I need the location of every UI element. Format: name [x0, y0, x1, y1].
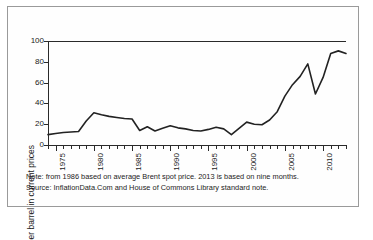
x-tick-mark — [109, 145, 110, 149]
x-tick-label: 2005 — [288, 153, 296, 171]
y-tick-label: 100 — [31, 37, 44, 45]
x-tick-label: 1975 — [59, 153, 67, 171]
x-tick-mark — [247, 145, 248, 151]
x-tick-mark — [124, 145, 125, 149]
x-tick-mark — [293, 145, 294, 149]
x-tick-mark — [231, 145, 232, 149]
x-tick-mark — [186, 145, 187, 149]
y-tick-label: 80 — [35, 58, 44, 66]
source-line: Source: InflationData.Com and House of C… — [26, 182, 346, 193]
x-tick-mark — [323, 145, 324, 151]
x-tick-mark — [224, 145, 225, 149]
x-tick-label: 1985 — [135, 153, 143, 171]
y-tick-label: 60 — [35, 79, 44, 87]
x-tick-label: 2010 — [326, 153, 334, 171]
x-tick-mark — [308, 145, 309, 149]
x-tick-mark — [117, 145, 118, 149]
x-tick-mark — [79, 145, 80, 149]
x-tick-label: 1990 — [173, 153, 181, 171]
x-tick-mark — [86, 145, 87, 149]
price-line-series — [48, 41, 346, 145]
x-tick-mark — [208, 145, 209, 151]
y-axis-title: US $ per barrel in current prices — [16, 41, 28, 145]
x-tick-mark — [270, 145, 271, 149]
x-tick-mark — [48, 145, 49, 149]
x-tick-label: 2000 — [250, 153, 258, 171]
y-tick-label: 0 — [40, 141, 44, 149]
x-tick-mark — [338, 145, 339, 149]
x-tick-mark — [170, 145, 171, 151]
x-tick-mark — [101, 145, 102, 149]
x-tick-mark — [163, 145, 164, 149]
x-tick-mark — [132, 145, 133, 151]
x-tick-mark — [300, 145, 301, 149]
x-tick-mark — [147, 145, 148, 149]
x-tick-mark — [216, 145, 217, 149]
x-tick-mark — [201, 145, 202, 149]
x-tick-mark — [63, 145, 64, 149]
x-tick-mark — [155, 145, 156, 149]
axis-bottom-line — [48, 145, 346, 146]
x-tick-mark — [94, 145, 95, 151]
x-tick-mark — [193, 145, 194, 149]
figure-frame: US $ per barrel in current prices 020406… — [7, 6, 359, 207]
note-line: Note: from 1986 based on average Brent s… — [26, 171, 346, 182]
x-tick-label: 1980 — [97, 153, 105, 171]
x-tick-mark — [140, 145, 141, 149]
x-tick-mark — [239, 145, 240, 149]
x-tick-mark — [254, 145, 255, 149]
x-tick-mark — [178, 145, 179, 149]
x-tick-mark — [331, 145, 332, 149]
x-tick-label: 1995 — [211, 153, 219, 171]
x-tick-mark — [71, 145, 72, 149]
price-line-path — [48, 51, 346, 135]
figure-notes: Note: from 1986 based on average Brent s… — [26, 171, 346, 193]
x-tick-mark — [262, 145, 263, 149]
y-tick-label: 40 — [35, 99, 44, 107]
x-tick-mark — [346, 145, 347, 149]
y-tick-label: 20 — [35, 120, 44, 128]
x-tick-mark — [277, 145, 278, 149]
x-tick-mark — [56, 145, 57, 151]
plot-area: 020406080100 197519801985199019952000200… — [48, 41, 346, 145]
x-tick-mark — [315, 145, 316, 149]
x-tick-mark — [285, 145, 286, 151]
